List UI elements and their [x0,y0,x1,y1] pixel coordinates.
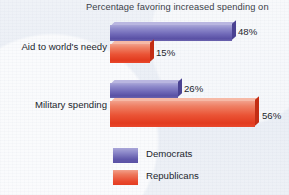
plot-area: 48% 15% 26% 56% [110,0,289,195]
bar-top-bevel [112,22,235,25]
bar-face [110,44,150,63]
bar-face [110,101,255,127]
bar-democrats-military [110,83,178,98]
legend-swatch-republicans [113,170,138,185]
bar-top-bevel [112,41,153,44]
category-label-aid: Aid to world's needy [0,41,107,52]
bar-top-bevel [112,80,181,83]
legend-swatch-democrats [113,148,138,163]
bar-end-cap [255,96,259,125]
category-label-military: Military spending [0,99,107,110]
bar-face [110,25,232,41]
legend-label-democrats: Democrats [146,148,192,159]
bar-republicans-military [110,101,255,127]
bar-democrats-aid [110,25,232,41]
bar-value-republicans-aid: 15% [156,47,175,58]
bar-value-republicans-military: 56% [262,110,281,121]
bar-end-cap [178,78,182,96]
bar-top-bevel [112,98,258,101]
bar-end-cap [150,39,154,61]
bar-value-democrats-aid: 48% [238,26,257,37]
bar-face [110,83,178,98]
legend-label-republicans: Republicans [146,170,199,181]
bar-value-democrats-military: 26% [184,83,203,94]
bar-end-cap [232,20,236,39]
bar-republicans-aid [110,44,150,63]
chart-container: Percentage favoring increased spending o… [0,0,289,195]
